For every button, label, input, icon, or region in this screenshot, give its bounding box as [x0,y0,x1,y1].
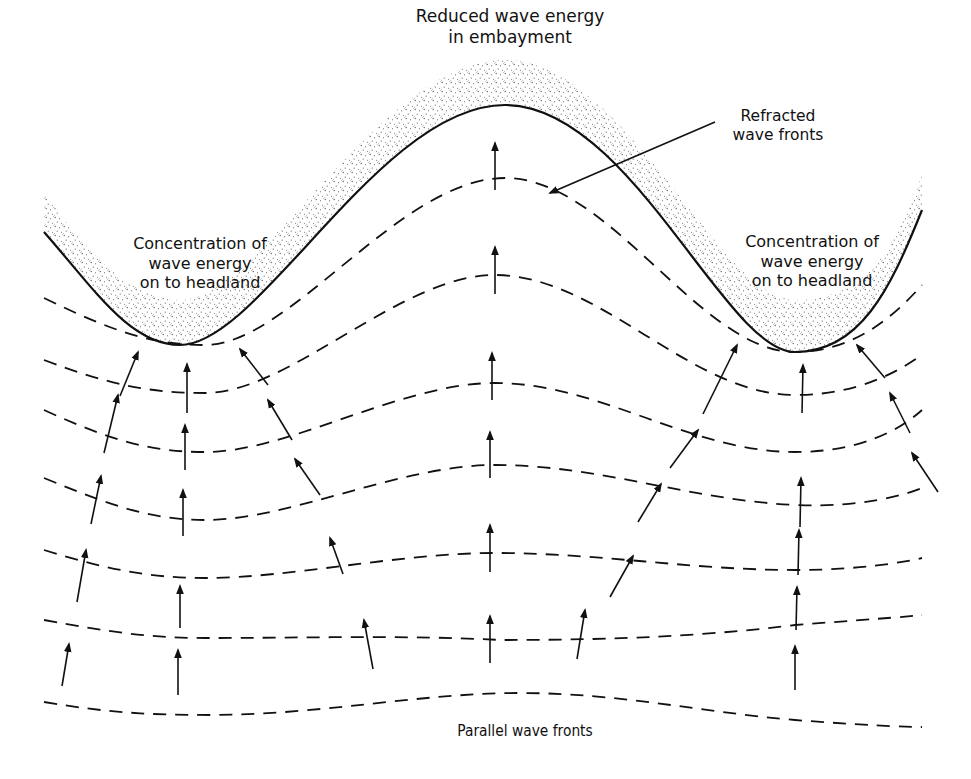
arrow [857,345,885,378]
arrow [240,349,268,385]
wave-front-3 [44,383,922,452]
embayment-label: Reduced wave energy in embayment [380,6,640,47]
headland-right-line2: wave energy [712,252,912,272]
arrow [91,476,101,524]
embayment-label-line1: Reduced wave energy [380,6,640,27]
refracted-label-line2: wave fronts [718,126,838,145]
headland-left-label: Concentration of wave energy on to headl… [100,234,300,293]
arrow [77,550,86,602]
parallel-wave-fronts-label: Parallel wave fronts [396,722,654,740]
refracted-label: Refracted wave fronts [718,107,838,145]
arrow [610,556,633,597]
arrow [798,530,799,575]
arrow [796,587,797,630]
wave-front-6 [44,615,922,640]
arrow [104,395,118,453]
land-stipple-band [44,60,922,352]
wave-orthogonals [62,143,938,695]
arrow [577,610,585,659]
headland-right-line3: on to headland [712,271,912,291]
headland-right-line1: Concentration of [712,232,912,252]
arrow [364,620,373,669]
arrow [295,459,320,495]
refracted-label-line1: Refracted [718,107,838,126]
arrow [800,478,801,527]
arrow [638,484,661,522]
arrow [120,352,138,396]
headland-left-line1: Concentration of [100,234,300,254]
wave-front-4 [44,465,922,520]
arrow [703,345,737,414]
arrow [268,400,292,440]
headland-right-label: Concentration of wave energy on to headl… [712,232,912,291]
embayment-label-line2: in embayment [380,27,640,48]
headland-left-line3: on to headland [100,273,300,293]
wave-front-5 [44,550,922,578]
arrow [62,644,69,686]
arrow [330,538,343,574]
headland-left-line2: wave energy [100,254,300,274]
arrow [670,430,698,468]
arrow [802,365,803,413]
arrow [912,453,938,492]
